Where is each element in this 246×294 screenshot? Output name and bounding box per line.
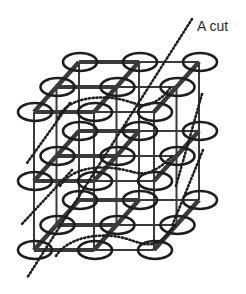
depth-bond xyxy=(94,87,117,112)
depth-bond xyxy=(154,87,177,112)
depth-bond xyxy=(34,87,57,112)
depth-bond xyxy=(117,62,140,87)
depth-bond xyxy=(117,131,140,156)
lattice-diagram: A cut xyxy=(0,0,246,294)
depth-bond xyxy=(94,225,117,250)
depth-bond xyxy=(177,62,200,87)
depth-bond xyxy=(117,200,140,225)
depth-bond xyxy=(57,131,80,156)
lattice-structure xyxy=(18,19,217,278)
depth-bond xyxy=(34,156,57,181)
depth-bond xyxy=(57,62,80,87)
cut-label: A cut xyxy=(197,18,228,34)
